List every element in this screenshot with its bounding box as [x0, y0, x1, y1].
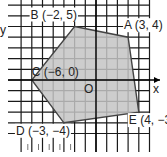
x-axis-label: x	[153, 82, 159, 96]
coordinate-diagram: xyOA (3, 4)B (−2, 5)C (−6, 0)D (−3, −4)E…	[0, 0, 167, 157]
origin-label: O	[84, 82, 93, 96]
vertex-label-d: D (−3, −4)	[16, 124, 70, 138]
vertex-label-c: C (−6, 0)	[32, 65, 79, 79]
vertex-label-b: B (−2, 5)	[31, 8, 77, 22]
vertex-label-a: A (3, 4)	[124, 18, 163, 32]
y-axis-label: y	[0, 23, 6, 37]
vertex-label-e: E (4, −3)	[129, 113, 167, 127]
